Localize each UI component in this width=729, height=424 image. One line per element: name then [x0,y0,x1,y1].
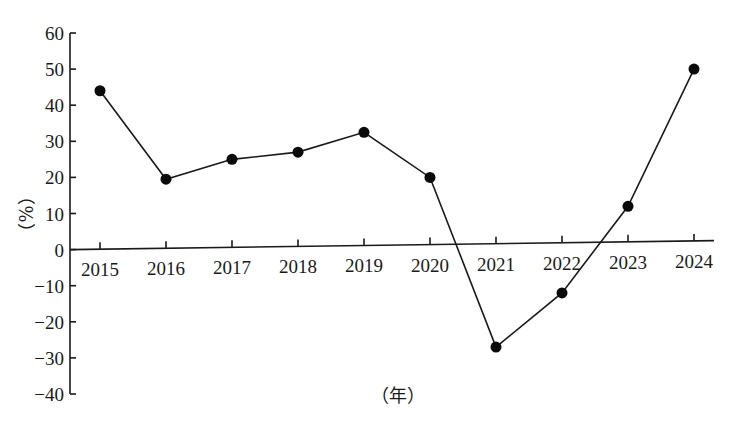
data-point-marker [425,172,436,183]
data-point-marker [227,154,238,165]
x-tick-label: 2018 [279,256,317,277]
data-point-marker [557,287,568,298]
x-tick-label: 2021 [477,254,515,275]
x-tick-label: 2015 [81,259,119,280]
y-tick-label: 30 [45,131,64,152]
y-tick-label: 60 [45,23,64,44]
x-axis-title: （年） [371,385,425,406]
y-tick-label: 50 [45,59,64,80]
data-point-marker [95,85,106,96]
x-tick-label: 2020 [411,255,449,276]
x-tick-label: 2022 [543,253,581,274]
data-point-marker [161,174,172,185]
y-tick-label: 40 [45,95,64,116]
y-tick-label: 20 [45,167,64,188]
y-axis-title: （%） [16,187,37,240]
x-tick-label: 2016 [147,258,185,279]
y-tick-label: −10 [34,276,64,297]
data-series [95,64,700,353]
x-tick-label: 2024 [675,251,714,272]
data-point-marker [491,342,502,353]
x-tick-label: 2017 [213,257,251,278]
series-line [100,69,694,347]
data-point-marker [689,64,700,75]
y-tick-label: 0 [55,240,65,261]
line-chart: 6050403020100−10−20−30−40 20152016201720… [0,0,729,424]
y-tick-label: 10 [45,204,64,225]
x-axis: 2015201620172018201920202021202220232024 [70,234,714,280]
data-point-marker [293,147,304,158]
x-tick-label: 2019 [345,255,383,276]
y-tick-label: −20 [34,312,64,333]
y-tick-label: −40 [34,384,64,405]
data-point-marker [359,127,370,138]
x-tick-label: 2023 [609,252,647,273]
y-axis: 6050403020100−10−20−30−40 [34,23,76,405]
data-point-marker [623,201,634,212]
y-tick-label: −30 [34,348,64,369]
